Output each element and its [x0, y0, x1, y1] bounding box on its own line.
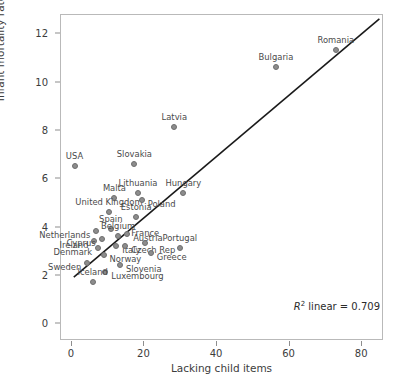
x-tick-label: 20 — [128, 348, 158, 359]
data-point-label: France — [131, 228, 159, 238]
y-tick-mark — [55, 178, 60, 179]
y-tick-mark — [55, 81, 60, 82]
data-point[interactable] — [139, 197, 145, 203]
data-point-label: Cyprus — [66, 238, 95, 248]
y-axis-title: Infant mortality rate — [0, 0, 6, 128]
y-tick-mark — [55, 323, 60, 324]
y-tick-mark — [55, 33, 60, 34]
x-tick-mark — [361, 341, 362, 346]
data-point[interactable] — [90, 279, 96, 285]
data-point-label: Romania — [318, 35, 355, 45]
y-tick-label: 6 — [22, 173, 48, 184]
data-point[interactable] — [99, 236, 105, 242]
x-tick-mark — [216, 341, 217, 346]
data-point[interactable] — [72, 163, 78, 169]
data-point[interactable] — [148, 250, 154, 256]
data-point-label: Greece — [157, 252, 187, 262]
scatter-chart: Infant mortality rate Lacking child item… — [0, 0, 394, 384]
data-point-label: Sweden — [48, 262, 81, 272]
data-point-label: Iceland — [78, 267, 108, 277]
y-tick-mark — [55, 274, 60, 275]
data-point-label: Portugal — [162, 233, 197, 243]
x-tick-mark — [143, 341, 144, 346]
y-tick-mark — [55, 129, 60, 130]
data-point[interactable] — [333, 47, 339, 53]
y-tick-label: 12 — [22, 28, 48, 39]
data-point-label: Slovakia — [117, 149, 152, 159]
data-point[interactable] — [135, 190, 141, 196]
r-squared-annotation: R2 linear = 0.709 — [294, 300, 380, 312]
data-point-label: Hungary — [166, 178, 202, 188]
x-tick-label: 60 — [274, 348, 304, 359]
r2-text: linear = — [305, 301, 351, 312]
r2-value: 0.709 — [351, 301, 380, 312]
x-tick-label: 40 — [201, 348, 231, 359]
y-tick-label: 10 — [22, 76, 48, 87]
y-tick-mark — [55, 226, 60, 227]
r2-symbol: R — [294, 301, 301, 312]
data-point-label: Belgium — [101, 221, 135, 231]
data-point-label: USA — [66, 151, 83, 161]
data-point[interactable] — [177, 245, 183, 251]
data-point[interactable] — [124, 231, 130, 237]
x-axis-title: Lacking child items — [60, 362, 383, 374]
x-tick-mark — [289, 341, 290, 346]
data-point-label: Poland — [148, 199, 176, 209]
data-point-label: Norway — [110, 254, 142, 264]
y-tick-label: 2 — [22, 269, 48, 280]
y-tick-label: 0 — [22, 318, 48, 329]
data-point-label: Lithuania — [119, 178, 158, 188]
data-point-label: Bulgaria — [259, 52, 294, 62]
plot-area — [60, 14, 383, 340]
data-point[interactable] — [84, 260, 90, 266]
data-point-label: Slovenia — [126, 264, 162, 274]
y-tick-label: 8 — [22, 124, 48, 135]
x-tick-label: 0 — [56, 348, 86, 359]
data-point-label: Denmark — [54, 247, 93, 257]
data-point[interactable] — [117, 262, 123, 268]
data-point-label: Latvia — [162, 112, 188, 122]
x-tick-mark — [71, 341, 72, 346]
x-tick-label: 80 — [346, 348, 376, 359]
